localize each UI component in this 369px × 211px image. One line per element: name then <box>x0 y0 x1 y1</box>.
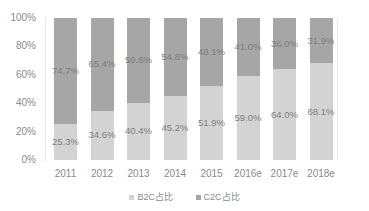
legend-swatch-b2c <box>129 195 134 200</box>
bar-2015: 48.1%51.9% <box>200 18 223 160</box>
bar-2018e: 31.9%68.1% <box>310 18 333 160</box>
data-label-b2c: 64.0% <box>265 110 304 120</box>
x-tick-label: 2018e <box>301 168 341 179</box>
y-tick-label: 0% <box>2 155 36 165</box>
data-label-c2c: 59.6% <box>119 55 158 65</box>
data-label-c2c: 48.1% <box>192 47 231 57</box>
data-label-b2c: 45.2% <box>156 123 195 133</box>
x-tick-label: 2015 <box>192 168 232 179</box>
bar-2012: 65.4%34.6% <box>91 18 114 160</box>
data-label-c2c: 54.8% <box>156 52 195 62</box>
legend-label-c2c: C2C占比 <box>204 192 240 202</box>
stacked-bar-chart: 0%20%40%60%80%100% 74.7%25.3%65.4%34.6%5… <box>0 0 369 211</box>
y-tick-label: 40% <box>2 98 36 108</box>
y-tick-label: 20% <box>2 127 36 137</box>
legend-label-b2c: B2C占比 <box>137 192 173 202</box>
data-label-b2c: 40.4% <box>119 126 158 136</box>
legend-swatch-c2c <box>196 195 201 200</box>
x-tick-label: 2016e <box>228 168 268 179</box>
data-label-c2c: 31.9% <box>302 36 341 46</box>
bar-2017e: 36.0%64.0% <box>273 18 296 160</box>
x-tick-label: 2014 <box>155 168 195 179</box>
data-label-b2c: 59.0% <box>229 113 268 123</box>
legend-item-b2c: B2C占比 <box>129 190 173 203</box>
y-tick-label: 60% <box>2 70 36 80</box>
bar-2014: 54.8%45.2% <box>164 18 187 160</box>
data-label-b2c: 34.6% <box>83 130 122 140</box>
x-tick-label: 2017e <box>265 168 305 179</box>
plot-area: 74.7%25.3%65.4%34.6%59.6%40.4%54.8%45.2%… <box>45 18 338 160</box>
legend-item-c2c: C2C占比 <box>196 190 240 203</box>
legend: B2C占比 C2C占比 <box>0 190 369 203</box>
y-tick-label: 80% <box>2 41 36 51</box>
bar-2016e: 41.0%59.0% <box>237 18 260 160</box>
bar-2011: 74.7%25.3% <box>54 18 77 160</box>
data-label-b2c: 68.1% <box>302 107 341 117</box>
y-tick-label: 100% <box>2 13 36 23</box>
bar-2013: 59.6%40.4% <box>127 18 150 160</box>
x-tick-label: 2011 <box>46 168 86 179</box>
data-label-c2c: 74.7% <box>46 66 85 76</box>
x-tick-label: 2012 <box>82 168 122 179</box>
data-label-c2c: 36.0% <box>265 39 304 49</box>
data-label-c2c: 65.4% <box>83 59 122 69</box>
x-tick-label: 2013 <box>119 168 159 179</box>
data-label-b2c: 51.9% <box>192 118 231 128</box>
data-label-c2c: 41.0% <box>229 42 268 52</box>
data-label-b2c: 25.3% <box>46 137 85 147</box>
